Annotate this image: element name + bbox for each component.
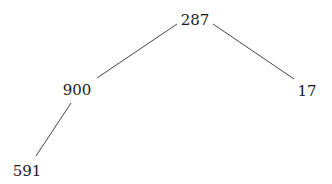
edge-287-17 <box>213 24 294 79</box>
tree-edges <box>0 0 332 184</box>
edge-287-900 <box>97 24 177 78</box>
node-root-287: 287 <box>181 13 210 28</box>
edge-900-591 <box>36 103 71 156</box>
node-right-17: 17 <box>297 84 316 99</box>
node-left-900: 900 <box>63 83 92 98</box>
node-left-left-591: 591 <box>13 164 42 179</box>
